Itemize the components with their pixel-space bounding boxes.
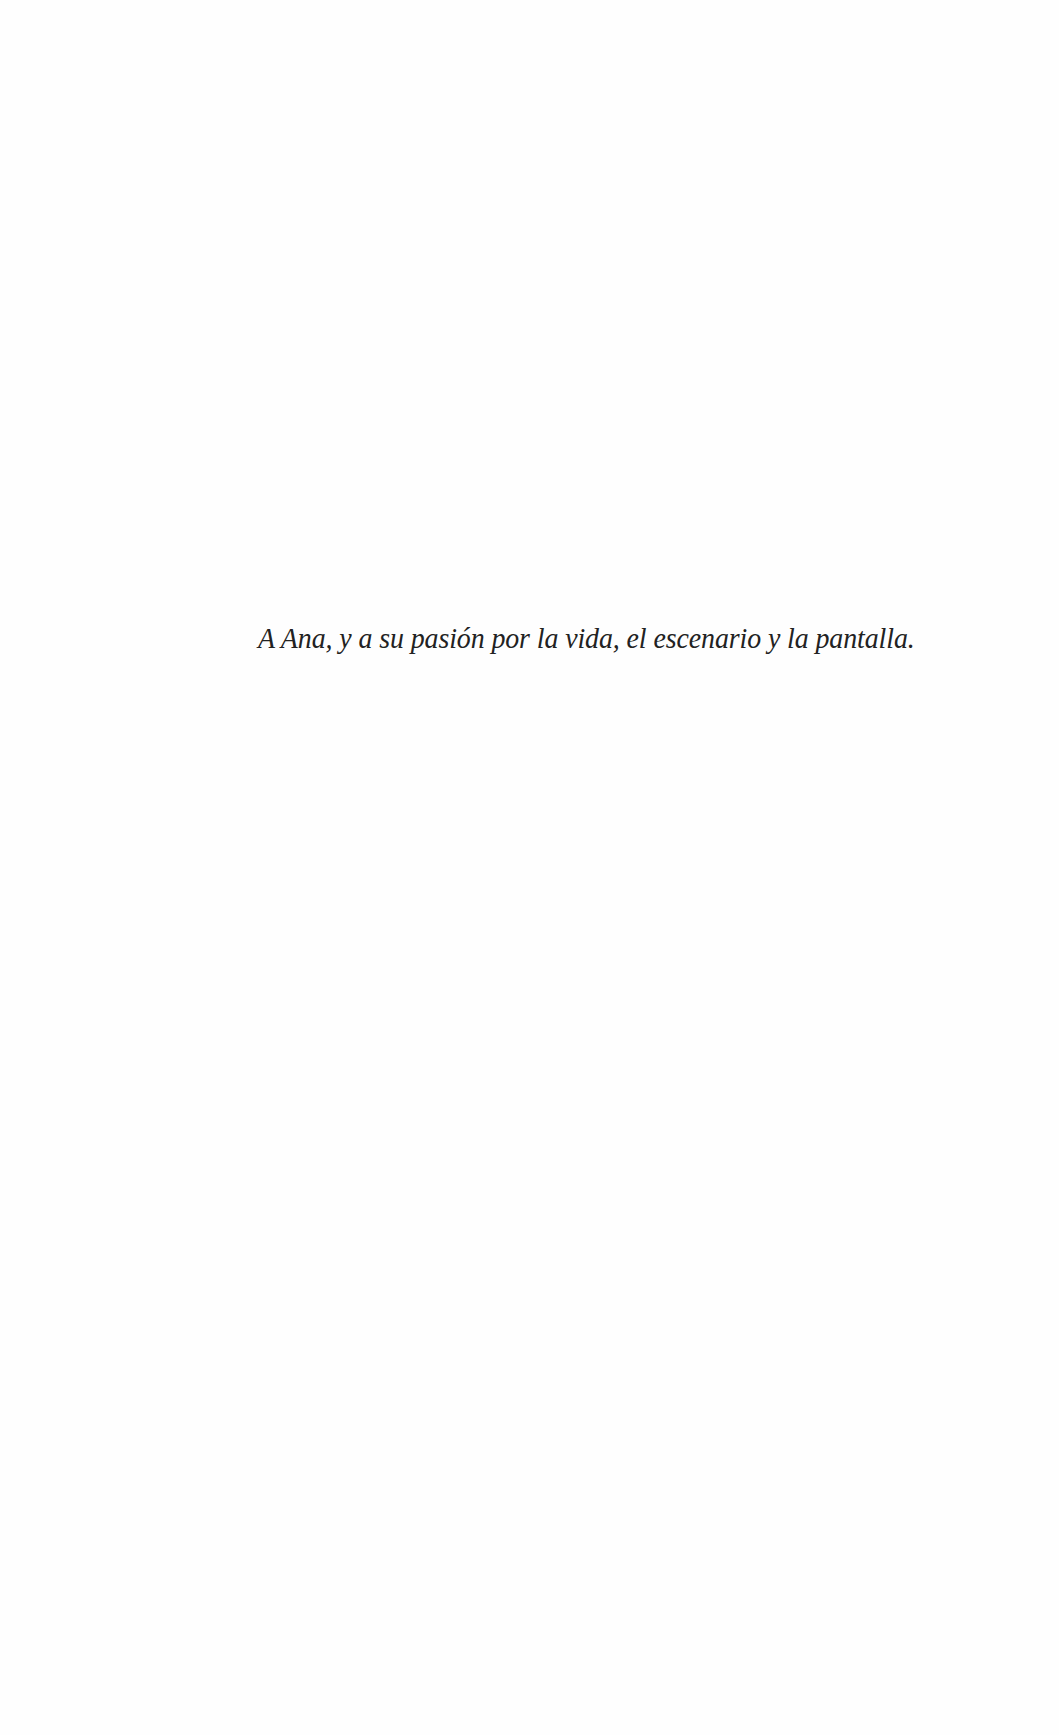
dedication-text: A Ana, y a su pasión por la vida, el esc… [258, 618, 853, 658]
book-page: A Ana, y a su pasión por la vida, el esc… [0, 0, 1059, 1735]
